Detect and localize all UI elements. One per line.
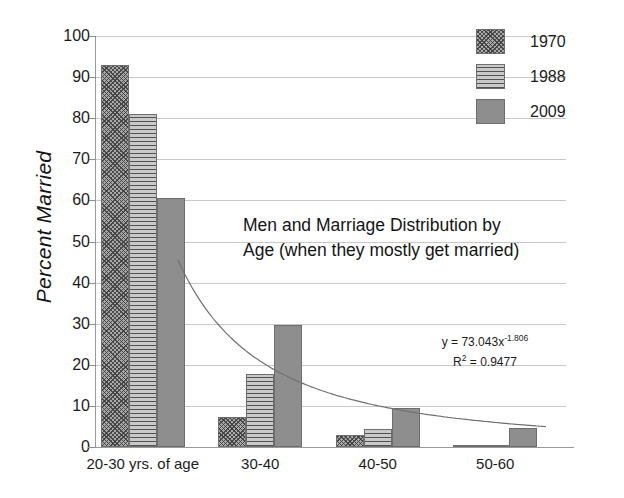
legend-label-1988: 1988 — [530, 68, 566, 86]
bar-1988-40-50[interactable] — [364, 429, 392, 447]
trendline-equation-annotation: y = 73.043x-1.806 R2 = 0.9477 — [400, 330, 570, 370]
bar-1988-20-30-yrs-of-age[interactable] — [129, 114, 157, 447]
y-axis-tick-labels: 1009080706050403020100 — [40, 0, 90, 498]
legend: 1970 1988 2009 — [476, 24, 616, 129]
r-squared-label: R — [453, 355, 462, 369]
bar-1988-30-40[interactable] — [246, 374, 274, 447]
legend-item-2009[interactable]: 2009 — [476, 94, 616, 129]
bar-2009-50-60[interactable] — [509, 428, 537, 447]
y-axis-tick — [89, 324, 96, 325]
chart-title: Men and Marriage Distribution by Age (wh… — [243, 213, 603, 263]
y-axis-tick — [89, 200, 96, 201]
legend-swatch-1970 — [476, 29, 505, 54]
bar-1970-20-30-yrs-of-age[interactable] — [101, 65, 129, 447]
legend-label-2009: 2009 — [530, 103, 566, 121]
legend-item-1988[interactable]: 1988 — [476, 59, 616, 94]
y-axis-tick — [89, 159, 96, 160]
y-axis-tick-label: 60 — [40, 191, 90, 209]
legend-item-1970[interactable]: 1970 — [476, 24, 616, 59]
y-axis-tick-label: 80 — [40, 109, 90, 127]
legend-swatch-2009 — [476, 99, 505, 124]
bar-1970-40-50[interactable] — [336, 435, 364, 447]
y-axis-tick — [89, 36, 96, 37]
gridline — [96, 159, 566, 160]
y-axis-tick-label: 30 — [40, 315, 90, 333]
y-axis-tick-label: 90 — [40, 68, 90, 86]
y-axis-tick — [89, 118, 96, 119]
y-axis-tick — [89, 77, 96, 78]
bar-2009-30-40[interactable] — [274, 325, 302, 447]
bar-2009-40-50[interactable] — [392, 408, 420, 447]
x-axis-line — [88, 447, 574, 448]
y-axis-tick-label: 10 — [40, 397, 90, 415]
bar-1970-50-60[interactable] — [453, 445, 481, 447]
equation-line: y = 73.043x-1.806 — [400, 330, 570, 350]
bar-1970-30-40[interactable] — [218, 417, 246, 447]
y-axis-tick-label: 20 — [40, 356, 90, 374]
legend-swatch-1988 — [476, 64, 505, 89]
legend-label-1970: 1970 — [530, 33, 566, 51]
bar-chart: Percent Married 1009080706050403020100 1… — [0, 0, 624, 498]
y-axis-tick-label: 40 — [40, 274, 90, 292]
x-axis-category-label: 20-30 yrs. of age — [84, 455, 202, 472]
y-axis-tick — [89, 242, 96, 243]
y-axis-tick-label: 100 — [40, 27, 90, 45]
equation-exponent: -1.806 — [504, 333, 528, 343]
y-axis-tick — [89, 406, 96, 407]
chart-title-line-2: Age (when they mostly get married) — [243, 238, 603, 263]
x-axis-category-label: 30-40 — [202, 455, 320, 472]
y-axis-tick — [89, 447, 96, 448]
y-axis-tick — [89, 283, 96, 284]
y-axis-tick-label: 50 — [40, 233, 90, 251]
equation-text: y = 73.043x — [442, 335, 504, 349]
y-axis-tick-label: 70 — [40, 150, 90, 168]
x-axis-category-label: 50-60 — [437, 455, 555, 472]
r-squared-value: = 0.9477 — [467, 355, 517, 369]
y-axis-tick-label: 0 — [40, 438, 90, 456]
bar-2009-20-30-yrs-of-age[interactable] — [157, 198, 185, 447]
r-squared-line: R2 = 0.9477 — [400, 350, 570, 370]
y-axis-tick — [89, 365, 96, 366]
bar-1988-50-60[interactable] — [481, 445, 509, 447]
chart-title-line-1: Men and Marriage Distribution by — [243, 213, 603, 238]
x-axis-category-label: 40-50 — [319, 455, 437, 472]
